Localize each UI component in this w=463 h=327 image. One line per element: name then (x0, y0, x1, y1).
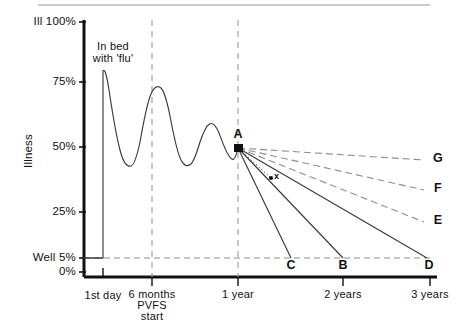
outcome-line-C (238, 148, 291, 258)
x-tick-label-one-year: 1 year (208, 289, 268, 301)
illness-course-curve (84, 70, 238, 258)
y-tick-label-50: 50% (0, 140, 76, 152)
point-label-B: B (333, 259, 353, 273)
point-label-C: C (281, 259, 301, 273)
point-label-E: E (428, 214, 448, 228)
outcome-line-B (238, 148, 343, 258)
y-tick-label-75: 75% (0, 75, 76, 87)
x-tick-label-two-years: 2 years (313, 289, 373, 301)
point-label-A: A (228, 128, 248, 142)
x-tick-label-start: start (116, 311, 188, 323)
point-A-marker (234, 144, 243, 152)
marker-x-dot (269, 176, 273, 180)
marker-x-label: x (274, 172, 286, 182)
x-tick-label-three-years: 3 years (399, 289, 461, 301)
outcome-line-D (238, 148, 427, 258)
y-tick-label-0: 0% (0, 265, 76, 277)
chart-figure: Illness Ill 100% 75% 50% 25% Well 5% 0% … (0, 0, 463, 327)
point-label-G: G (428, 152, 448, 166)
point-label-D: D (419, 259, 439, 273)
outcome-line-E (238, 148, 424, 222)
annotation-in-bed-line2: with 'flu' (70, 53, 156, 65)
chart-canvas (0, 0, 463, 327)
y-tick-label-well-5: Well 5% (0, 251, 76, 263)
y-tick-label-100: Ill 100% (0, 15, 76, 27)
point-label-F: F (428, 182, 448, 196)
y-tick-label-25: 25% (0, 205, 76, 217)
